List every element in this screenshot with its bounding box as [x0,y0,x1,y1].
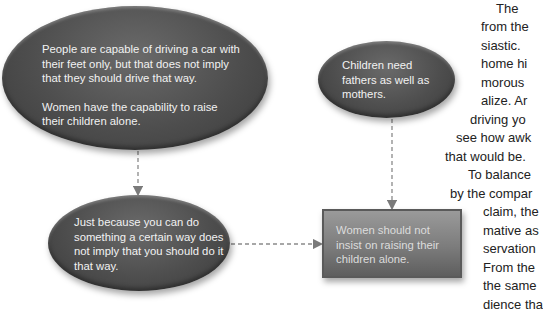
premise-text-2: Women have the capability to raise their… [42,100,242,129]
conclusion-box: Women should not insist on raising their… [322,209,462,278]
warrant-text: Just because you can do something a cert… [74,215,224,273]
side-line: siastic. [481,37,521,56]
side-line: morous [481,74,524,93]
side-line: by the compar [450,185,532,204]
premise-text-1: People are capable of driving a car with… [42,42,242,86]
side-line: home hi [481,55,527,74]
conclusion-text: Women should not insist on raising their… [336,223,456,267]
side-line: alize. Ar [481,92,527,111]
premise-fathers-text: Children need fathers as well as mothers… [342,58,437,102]
side-line: The [496,0,518,19]
side-line: see how awk [456,129,531,148]
side-line: driving yo [470,111,526,130]
premise-ellipse-driving: People are capable of driving a car with… [2,6,268,150]
side-line: that would be. [445,148,526,167]
warrant-ellipse: Just because you can do something a cert… [48,195,230,291]
side-line: from the [481,18,529,37]
side-line: servation [483,240,536,259]
side-line: dience tha [483,296,543,313]
side-line: To balance [468,166,531,185]
side-line: claim, the [483,203,539,222]
side-line: mative as [483,222,539,241]
premise-ellipse-fathers: Children need fathers as well as mothers… [318,41,455,118]
side-line: the same [483,277,536,296]
side-line: From the [483,259,535,278]
